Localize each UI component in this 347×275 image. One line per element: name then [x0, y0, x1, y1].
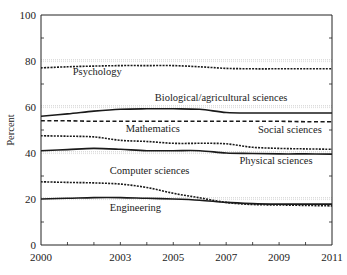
- series-line-biological-agricultural-sciences: [41, 109, 332, 116]
- y-tick-label: 20: [25, 193, 37, 205]
- y-axis-title: Percent: [5, 114, 16, 146]
- series-label: Psychology: [73, 66, 123, 77]
- series-label: Computer sciences: [110, 165, 190, 176]
- series-labels: PsychologyBiological/agricultural scienc…: [73, 66, 322, 213]
- y-tick-label: 80: [25, 55, 37, 67]
- x-tick-label: 2003: [109, 251, 132, 263]
- series-line-social-sciences: [41, 121, 332, 122]
- x-tick-label: 2005: [162, 251, 185, 263]
- x-tick-label: 2007: [215, 251, 238, 263]
- series-line-engineering: [41, 198, 332, 205]
- series-lines: [41, 66, 332, 206]
- series-label: Biological/agricultural sciences: [155, 92, 288, 103]
- x-tick-label: 2011: [321, 251, 343, 263]
- series-label: Mathematics: [126, 123, 180, 134]
- series-label: Engineering: [110, 202, 162, 213]
- y-tick-label: 60: [25, 101, 37, 113]
- series-line-mathematics: [41, 136, 332, 150]
- series-label: Social sciences: [258, 124, 322, 135]
- line-chart: PsychologyBiological/agricultural scienc…: [0, 0, 347, 275]
- chart-canvas: PsychologyBiological/agricultural scienc…: [0, 0, 347, 275]
- x-tick-label: 2009: [268, 251, 291, 263]
- y-tick-label: 40: [25, 147, 37, 159]
- y-tick-label: 0: [31, 239, 37, 251]
- x-tick-label: 2000: [30, 251, 53, 263]
- y-tick-label: 100: [20, 9, 37, 21]
- series-label: Physical sciences: [239, 155, 312, 166]
- series-line-computer-sciences: [41, 182, 332, 206]
